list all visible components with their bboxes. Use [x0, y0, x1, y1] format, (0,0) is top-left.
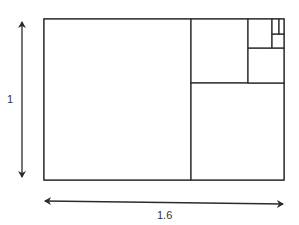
width-arrow [45, 201, 283, 204]
height-label: 1 [7, 93, 13, 105]
largest-square [44, 19, 191, 180]
square-3 [191, 83, 284, 180]
golden-rectangle-diagram: 1 1.6 [0, 0, 299, 225]
square-8 [279, 19, 284, 34]
square-5 [248, 19, 272, 48]
width-label: 1.6 [157, 209, 172, 221]
square-2 [191, 19, 248, 83]
square-4 [248, 48, 284, 83]
square-7 [272, 19, 279, 34]
square-6 [272, 34, 284, 48]
